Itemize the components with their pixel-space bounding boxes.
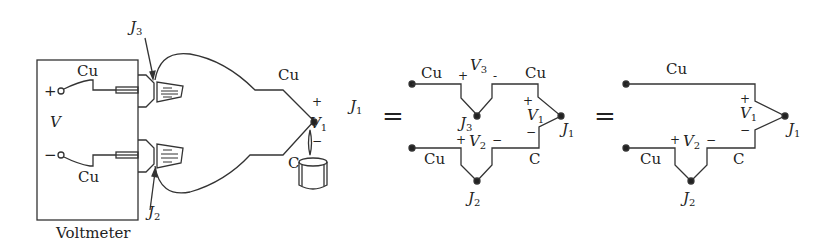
right-cu-top: Cu xyxy=(666,62,687,77)
equals-sign-2: = xyxy=(594,103,616,129)
right-j2-label: J2 xyxy=(683,191,695,208)
junction-label-j2: J2 xyxy=(148,205,160,222)
mid-v3-minus: - xyxy=(493,70,497,82)
probe-wire-cu-label: Cu xyxy=(278,68,299,83)
mid-j3-label: J3 xyxy=(460,116,472,133)
right-cu-bottom: Cu xyxy=(640,152,661,167)
right-v1-minus: − xyxy=(740,124,750,136)
equals-sign-1: = xyxy=(382,103,404,129)
mid-cu-bottom: Cu xyxy=(424,152,445,167)
right-v2-plus: + xyxy=(670,134,680,146)
junction-label-j1: J1 xyxy=(350,99,362,116)
right-v2-minus: − xyxy=(706,134,716,146)
v1-minus: − xyxy=(312,135,322,147)
probe-wire-c-label: C xyxy=(288,156,299,171)
v1-label: V1 xyxy=(310,116,327,133)
junction-label-j3: J3 xyxy=(130,20,142,37)
right-j1-label: J1 xyxy=(788,122,800,139)
thermocouple-diagram xyxy=(0,0,839,249)
mid-v1-minus: − xyxy=(526,126,536,138)
mid-v1-label: V1 xyxy=(527,108,544,125)
mid-v3-plus: + xyxy=(458,70,468,82)
plug-bottom xyxy=(138,140,154,172)
right-c-bottom: C xyxy=(733,152,744,167)
connector-bottom xyxy=(157,144,183,168)
mid-j2-label: J2 xyxy=(468,191,480,208)
mid-v2-minus: − xyxy=(492,134,502,146)
voltmeter-label: Voltmeter xyxy=(56,226,131,241)
v-label: V xyxy=(50,115,61,130)
mid-v2-label: V2 xyxy=(469,134,486,151)
mid-c-bottom: C xyxy=(529,152,540,167)
right-v2-label: V2 xyxy=(683,134,700,151)
v1-plus: + xyxy=(312,96,322,108)
mid-v2-plus: + xyxy=(456,134,466,146)
wire-label-cu-bottom: Cu xyxy=(78,170,99,185)
plus-terminal xyxy=(58,88,64,94)
plus-sign: + xyxy=(44,84,57,99)
right-v1-label: V1 xyxy=(740,106,757,123)
mid-cu-top-left: Cu xyxy=(421,66,442,81)
wire-cu xyxy=(155,54,314,121)
mid-j1-label: J1 xyxy=(562,122,574,139)
minus-sign: − xyxy=(44,148,57,163)
plug-top xyxy=(138,75,154,107)
wire-label-cu-top: Cu xyxy=(77,64,98,79)
mid-cu-top-right: Cu xyxy=(525,66,546,81)
mid-v3-label: V3 xyxy=(470,58,487,75)
minus-terminal xyxy=(58,152,64,158)
connector-top xyxy=(157,82,183,102)
